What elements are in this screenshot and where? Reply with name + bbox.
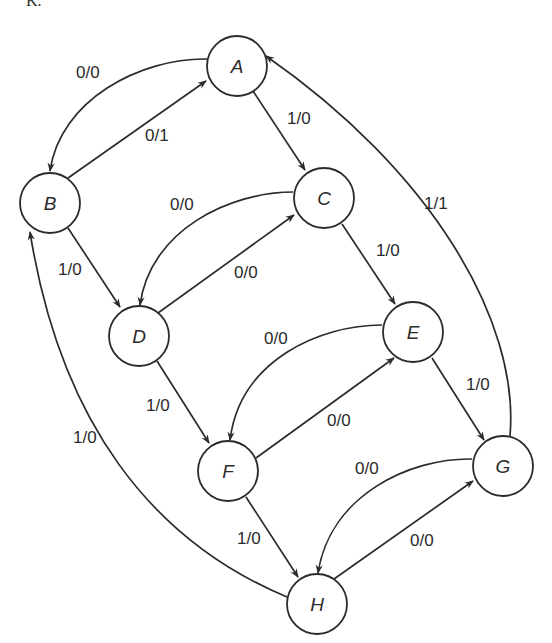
edge-c-to-e: [342, 224, 395, 304]
node-g: G: [473, 436, 533, 496]
node-c: C: [294, 168, 354, 228]
edge-label-e-g: 1/0: [466, 375, 490, 394]
corner-mark: K.: [26, 0, 42, 9]
node-d: D: [109, 306, 169, 366]
node-b: B: [20, 173, 80, 233]
edge-a-to-c: [253, 91, 305, 170]
node-f: F: [198, 441, 258, 501]
edge-label-d-f: 1/0: [146, 396, 170, 415]
node-label-a: A: [230, 56, 244, 77]
edge-h-to-g: [334, 481, 473, 579]
edge-e-to-g: [432, 358, 484, 440]
edge-label-f-h: 1/0: [237, 529, 261, 548]
node-label-e: E: [407, 322, 420, 343]
edge-label-a-c: 1/0: [287, 109, 311, 128]
edge-g-to-h: [318, 459, 472, 573]
node-label-g: G: [496, 456, 511, 477]
edge-label-c-e: 1/0: [376, 241, 400, 260]
edge-label-d-c: 0/0: [234, 263, 258, 282]
edge-label-c-d: 0/0: [170, 195, 194, 214]
edge-label-e-f: 0/0: [264, 329, 288, 348]
edge-label-h-g: 0/0: [410, 531, 434, 550]
edge-label-b-a: 0/1: [145, 126, 169, 145]
edge-b-to-a: [68, 81, 206, 178]
node-a: A: [207, 36, 267, 96]
edge-label-b-d: 1/0: [58, 260, 82, 279]
edge-label-h-b: 1/0: [73, 428, 97, 447]
edge-label-a-b: 0/0: [76, 63, 100, 82]
edge-c-to-d: [140, 192, 293, 305]
edge-label-g-a: 1/1: [424, 194, 448, 213]
edge-d-to-c: [158, 215, 294, 313]
edge-label-f-e: 0/0: [327, 411, 351, 430]
node-h: H: [287, 574, 347, 634]
node-label-f: F: [222, 461, 235, 482]
node-label-b: B: [44, 193, 57, 214]
node-label-d: D: [132, 326, 146, 347]
node-label-c: C: [317, 188, 331, 209]
node-e: E: [383, 302, 443, 362]
edge-f-to-e: [256, 358, 394, 458]
state-diagram: K. 0/0 0/1 1/0 1/0 0/0 0/0 1/0 1/0 0/0 0…: [0, 0, 552, 643]
node-label-h: H: [310, 594, 324, 615]
edge-label-g-h: 0/0: [355, 459, 379, 478]
edge-a-to-b: [50, 59, 207, 171]
